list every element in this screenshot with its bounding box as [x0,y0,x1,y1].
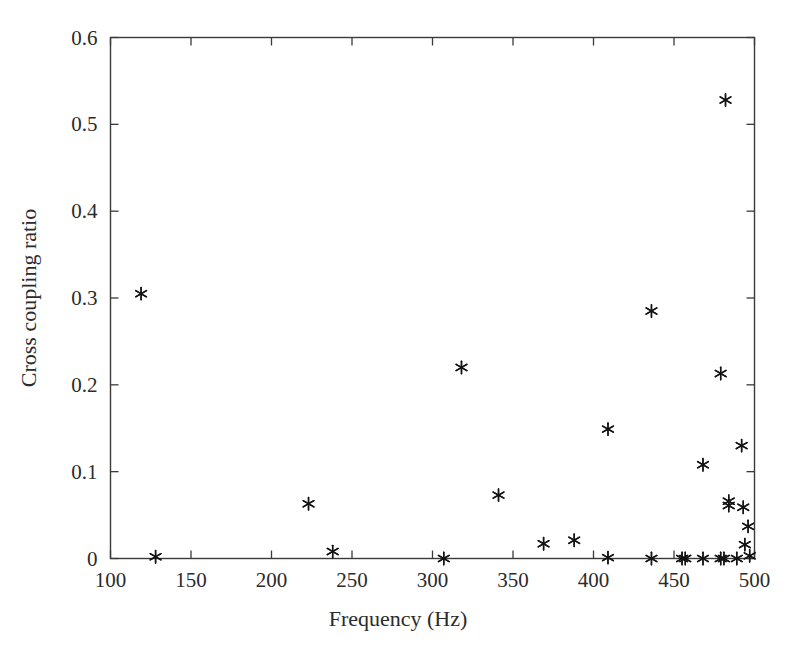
scatter-marker [698,459,709,471]
scatter-marker [150,551,161,563]
scatter-marker [303,498,314,510]
x-axis-ticks: 100150200250300350400450500 [95,38,771,592]
scatter-marker [646,305,657,317]
y-tick-label: 0.3 [71,286,97,310]
y-tick-label: 0 [87,547,98,571]
plot-frame [111,38,755,559]
scatter-marker [327,545,338,557]
y-tick-label: 0.5 [71,112,97,136]
y-tick-label: 0.4 [71,199,98,223]
scatter-marker [603,423,614,435]
x-tick-label: 450 [658,568,690,592]
y-tick-label: 0.1 [71,460,97,484]
y-tick-label: 0.2 [71,373,97,397]
scatter-marker [739,538,750,550]
x-tick-label: 200 [256,568,288,592]
scatter-marker [136,287,147,299]
x-tick-label: 300 [417,568,449,592]
x-axis-label: Frequency (Hz) [329,606,468,631]
y-axis-ticks: 00.10.20.30.40.50.6 [71,26,754,571]
scatter-marker [720,94,731,106]
scatter-marker [738,501,749,513]
data-points [136,94,755,565]
scatter-marker [723,499,734,511]
chart-page: 100150200250300350400450500 00.10.20.30.… [0,0,796,659]
y-axis-label: Cross coupling ratio [16,209,41,387]
x-tick-label: 250 [336,568,368,592]
x-tick-label: 500 [739,568,771,592]
scatter-marker [743,520,754,532]
scatter-marker [715,367,726,379]
y-tick-label: 0.6 [71,26,97,50]
x-tick-label: 150 [175,568,207,592]
scatter-marker [569,534,580,546]
scatter-marker [456,361,467,373]
x-tick-label: 400 [578,568,610,592]
scatter-marker [538,538,549,550]
scatter-plot-figure: 100150200250300350400450500 00.10.20.30.… [0,0,796,659]
plot-svg: 100150200250300350400450500 00.10.20.30.… [0,0,796,659]
scatter-marker [493,489,504,501]
scatter-marker [603,551,614,563]
x-tick-label: 350 [497,568,529,592]
scatter-marker [744,550,755,562]
axes-frame [111,38,755,559]
scatter-marker [736,439,747,451]
x-tick-label: 100 [95,568,127,592]
